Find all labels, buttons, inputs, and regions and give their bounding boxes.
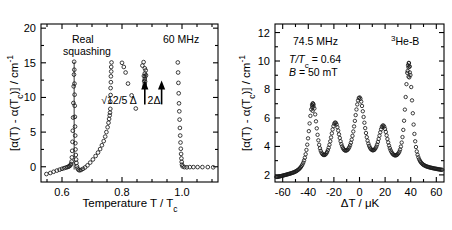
- svg-text:12: 12: [258, 27, 270, 39]
- svg-text:10: 10: [258, 55, 270, 67]
- right-xaxis-label: ΔT / μK: [341, 197, 380, 209]
- svg-text:20: 20: [24, 22, 36, 34]
- annot-arrow2-label: 2Δ: [148, 94, 161, 106]
- annot-real: Real: [72, 33, 94, 45]
- annot-arrow1-label: √12/5 Δ: [101, 94, 137, 106]
- svg-text:10: 10: [24, 91, 36, 103]
- svg-text:40: 40: [405, 186, 417, 198]
- left-panel: 0.60.81.005101520 Real squashing 60 MHz …: [0, 0, 226, 230]
- right-axis-ticks: [275, 24, 444, 182]
- right-panel: -60-40-20020406024681012 74.5 MHz 3He-B …: [226, 0, 452, 230]
- svg-text:20: 20: [379, 186, 391, 198]
- svg-text:0.6: 0.6: [54, 186, 69, 198]
- svg-text:0: 0: [30, 161, 36, 173]
- svg-text:8: 8: [264, 83, 270, 95]
- svg-text:-60: -60: [275, 186, 291, 198]
- svg-text:60: 60: [430, 186, 442, 198]
- right-plot-frame: [275, 24, 444, 182]
- left-data-points: [45, 60, 215, 176]
- right-tick-labels: -60-40-20020406024681012: [258, 27, 443, 198]
- svg-text:2: 2: [264, 169, 270, 181]
- left-xaxis-label: Temperature T / Tc: [82, 197, 178, 214]
- right-yaxis-label: [α(T) - α(Tc)] / cm-1: [237, 55, 257, 151]
- svg-text:15: 15: [24, 57, 36, 69]
- annot-frequency: 60 MHz: [163, 33, 199, 45]
- svg-text:-20: -20: [326, 186, 342, 198]
- svg-text:4: 4: [264, 140, 270, 152]
- left-panel-plot: 0.60.81.005101520 Real squashing 60 MHz …: [0, 0, 226, 230]
- svg-text:5: 5: [30, 126, 36, 138]
- annot-squashing: squashing: [63, 45, 111, 57]
- two-panel-figure: 0.60.81.005101520 Real squashing 60 MHz …: [0, 0, 452, 230]
- left-yaxis-label: [α(T) - α(Tc)] / cm-1: [5, 55, 25, 151]
- right-data-points: [275, 61, 444, 178]
- annot-right-frequency: 74.5 MHz: [293, 35, 338, 47]
- svg-text:-40: -40: [300, 186, 316, 198]
- svg-text:6: 6: [264, 112, 270, 124]
- svg-text:1.0: 1.0: [174, 186, 189, 198]
- right-panel-plot: -60-40-20020406024681012 74.5 MHz 3He-B …: [226, 0, 452, 230]
- annot-sample: 3He-B: [391, 34, 419, 48]
- annot-field: B = 50 mT: [289, 66, 338, 78]
